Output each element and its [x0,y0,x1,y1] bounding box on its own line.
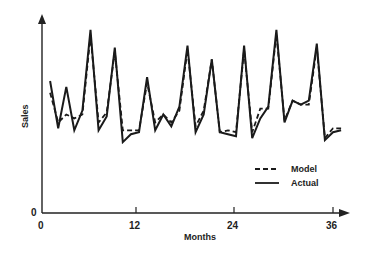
x-tick-label-24: 24 [227,220,239,231]
x-tick-label-0: 0 [38,220,44,231]
x-axis-title: Months [184,232,216,242]
x-tick-label-12: 12 [129,220,141,231]
y-axis-title: Sales [20,104,30,128]
sales-line-chart: 0 0 12 24 36 Months Sales Model Actual [0,0,373,254]
y-axis-arrow-icon [38,14,46,24]
x-axis-arrow-icon [339,209,350,217]
legend-model-label: Model [291,164,317,174]
y-origin-label: 0 [31,207,37,218]
legend: Model Actual [255,164,319,188]
actual-series-line [50,30,341,142]
x-tick-label-36: 36 [326,220,338,231]
legend-actual-label: Actual [291,178,319,188]
